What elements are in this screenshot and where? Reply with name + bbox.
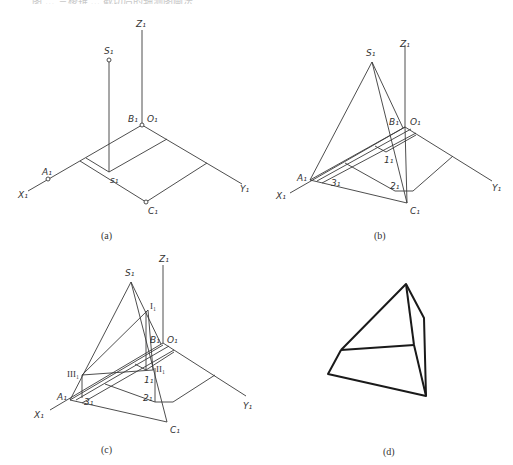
label-x: X₁ (33, 410, 44, 420)
label-s: S₁ (366, 48, 376, 58)
point-c (144, 200, 148, 204)
y-axis (163, 343, 246, 396)
construct-7 (413, 156, 453, 191)
label-o: O₁ (167, 335, 178, 345)
label-a: A₁ (56, 392, 67, 402)
construct-3 (345, 163, 395, 191)
label-z: Z₁ (135, 19, 146, 29)
label-c: C₁ (170, 425, 180, 435)
label-s-lower: s₁ (110, 175, 119, 185)
label-2: 2₁ (390, 181, 400, 191)
short-parallel (86, 158, 109, 172)
label-ii: II₁ (156, 364, 165, 374)
s-to-y-line (109, 139, 167, 172)
point-o (140, 123, 144, 127)
label-s: S₁ (125, 268, 135, 278)
x-axis (28, 125, 142, 191)
construct-2 (322, 133, 416, 183)
label-y: Y₁ (240, 184, 249, 194)
point-s (107, 58, 111, 62)
label-b: B₁ (128, 114, 138, 124)
label-y: Y₁ (492, 183, 501, 193)
label-x: X₁ (17, 190, 28, 200)
label-x: X₁ (275, 191, 286, 201)
section-iii-ii (82, 370, 153, 375)
caption-b: (b) (374, 230, 386, 242)
label-z: Z₁ (399, 39, 410, 49)
panel-d: (d) (328, 284, 426, 458)
panel-c: Z₁ S₁ I₁ B₁ O₁ III₁ II₁ 1₁ A₁ 3₁ 2₁ X₁ C… (33, 254, 252, 456)
panel-b: Z₁ S₁ B₁ O₁ A₁ X₁ 1₁ 2₁ 3₁ C₁ Y₁ (b) (275, 39, 501, 242)
truncated-pyramid-outline (328, 284, 426, 396)
caption-c: (c) (101, 444, 112, 456)
label-a: A₁ (296, 173, 307, 183)
y-axis (405, 127, 492, 181)
label-3: 3₁ (331, 178, 341, 188)
c-to-y-line (146, 163, 207, 202)
label-o: O₁ (147, 114, 158, 124)
caption-d: (d) (383, 446, 395, 458)
label-z: Z₁ (158, 254, 169, 264)
label-y: Y₁ (243, 401, 252, 411)
axonometric-figure: Z₁ S₁ B₁ O₁ A₁ X₁ s₁ C₁ Y₁ (a) Z₁ S₁ B₁ … (0, 0, 513, 465)
panel-a: Z₁ S₁ B₁ O₁ A₁ X₁ s₁ C₁ Y₁ (a) (17, 19, 249, 242)
label-2: 2₁ (143, 393, 153, 403)
label-1: 1₁ (144, 375, 154, 385)
label-iii: III₁ (67, 369, 79, 379)
y-axis (142, 125, 242, 184)
label-c: C₁ (410, 206, 420, 216)
label-o: O₁ (410, 117, 421, 127)
label-b: B₁ (150, 335, 160, 345)
label-c: C₁ (148, 206, 158, 216)
label-s: S₁ (104, 46, 114, 56)
label-b: B₁ (389, 117, 399, 127)
point-a (46, 177, 50, 181)
label-i: I₁ (150, 301, 156, 311)
caption-a: (a) (101, 230, 112, 242)
label-a: A₁ (41, 167, 52, 177)
section-edge (341, 345, 414, 350)
label-3: 3₁ (84, 397, 94, 407)
construct-5 (375, 146, 386, 152)
label-1: 1₁ (384, 155, 394, 165)
construct-7 (173, 375, 215, 402)
